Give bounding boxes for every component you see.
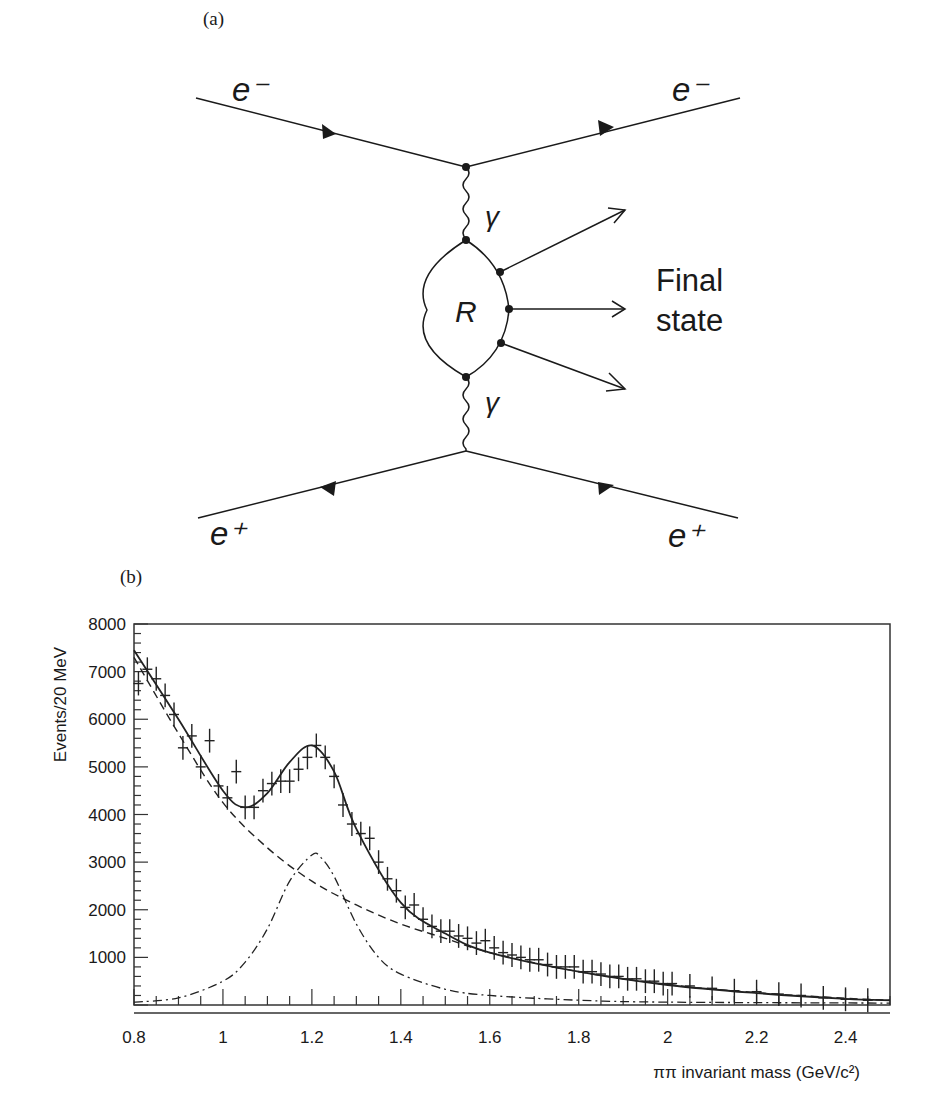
- y-tick-label: 8000: [88, 615, 126, 634]
- axis-labels: 100020003000400050006000700080000.811.21…: [51, 615, 860, 1082]
- x-tick-label: 0.8: [122, 1028, 146, 1047]
- axis-ticks: [134, 624, 890, 1005]
- y-tick-label: 2000: [88, 901, 126, 920]
- label-e-plus-in: e⁺: [210, 515, 248, 552]
- y-tick-label: 1000: [88, 948, 126, 967]
- plot-border: [134, 624, 890, 1005]
- x-tick-label: 1.2: [300, 1028, 324, 1047]
- x-tick-label: 1: [218, 1028, 227, 1047]
- label-photon-upper: γ: [485, 201, 501, 232]
- x-axis-title: ππ invariant mass (GeV/c²): [653, 1063, 860, 1082]
- resonance-signal-curve: [134, 853, 890, 1003]
- y-tick-label: 4000: [88, 806, 126, 825]
- label-e-minus-in: e⁻: [232, 71, 270, 108]
- y-axis-title: Events/20 MeV: [51, 646, 70, 762]
- y-tick-label: 6000: [88, 710, 126, 729]
- label-final-state-1: Final: [656, 263, 723, 298]
- x-tick-label: 1.4: [389, 1028, 413, 1047]
- fit-curves: [134, 650, 890, 1003]
- label-final-state-2: state: [656, 303, 723, 338]
- x-tick-label: 2.4: [834, 1028, 858, 1047]
- label-photon-lower: γ: [485, 387, 501, 418]
- background-curve: [134, 657, 890, 1000]
- panel-b-label: (b): [120, 566, 142, 588]
- y-tick-label: 5000: [88, 758, 126, 777]
- feynman-diagram: e⁻ e⁻ e⁺ e⁺ γ γ R Final state: [0, 0, 928, 560]
- label-resonance: R: [455, 295, 477, 328]
- x-tick-label: 1.8: [567, 1028, 591, 1047]
- y-tick-label: 7000: [88, 663, 126, 682]
- x-tick-label: 1.6: [478, 1028, 502, 1047]
- label-e-plus-out: e⁺: [668, 517, 706, 554]
- x-tick-label: 2.2: [745, 1028, 769, 1047]
- x-tick-label: 2: [663, 1028, 672, 1047]
- label-e-minus-out: e⁻: [672, 71, 710, 108]
- data-points: [133, 657, 872, 1012]
- plot-frame: [134, 624, 890, 1013]
- y-tick-label: 3000: [88, 853, 126, 872]
- total-fit-curve: [134, 650, 890, 1000]
